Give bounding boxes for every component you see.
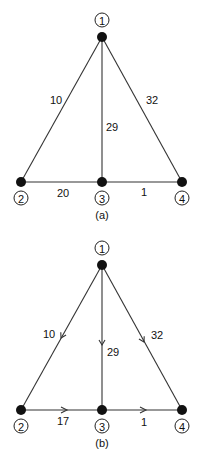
node-2 xyxy=(16,177,26,187)
weight-1-2: 10 xyxy=(50,94,62,106)
weight-1-2: 10 xyxy=(43,328,55,340)
caption-b: (b) xyxy=(95,437,108,449)
graph-figure: 1 2 3 4 10 29 32 20 1 (a) xyxy=(0,0,206,460)
node-label-2: 2 xyxy=(18,193,24,205)
edge-1-4 xyxy=(102,265,182,410)
weight-3-4: 1 xyxy=(141,186,147,198)
weight-1-4: 32 xyxy=(146,94,158,106)
edge-1-4 xyxy=(102,37,182,182)
node-label-2: 2 xyxy=(18,421,24,433)
node-1 xyxy=(97,260,107,270)
node-2 xyxy=(16,405,26,415)
node-3 xyxy=(97,177,107,187)
weight-2-3: 20 xyxy=(57,187,69,199)
weight-1-3: 29 xyxy=(106,121,118,133)
diagram-a: 1 2 3 4 10 29 32 20 1 (a) xyxy=(14,13,189,221)
diagram-b: 1 2 3 4 10 29 32 17 1 (b) xyxy=(14,241,189,449)
node-4 xyxy=(177,405,187,415)
node-label-3: 3 xyxy=(99,421,105,433)
caption-a: (a) xyxy=(95,209,108,221)
node-1 xyxy=(97,32,107,42)
weight-1-3: 29 xyxy=(107,346,119,358)
node-label-1: 1 xyxy=(99,15,105,27)
edge-1-2 xyxy=(21,37,102,182)
weight-1-4: 32 xyxy=(151,329,163,341)
node-label-1: 1 xyxy=(99,243,105,255)
node-label-4: 4 xyxy=(179,193,185,205)
weight-3-4: 1 xyxy=(141,416,147,428)
node-4 xyxy=(177,177,187,187)
node-3 xyxy=(97,405,107,415)
node-label-3: 3 xyxy=(99,193,105,205)
weight-2-3: 17 xyxy=(57,415,69,427)
node-label-4: 4 xyxy=(179,421,185,433)
